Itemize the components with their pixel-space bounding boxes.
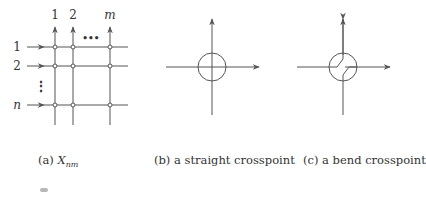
straight-crosspoint-diagram [166,19,259,115]
grid-labels: 1 2 m 1 2 n ••• ⋮ [13,8,116,112]
caption-panel-a: (a) Xnm [38,153,78,169]
crossbar-figure: 1 2 m 1 2 n ••• ⋮ [0,0,426,150]
row-label-2: 2 [13,59,21,73]
bend-crosspoint-diagram [297,19,390,115]
row-ellipsis: ⋮ [34,78,48,94]
column-ellipsis: ••• [82,33,99,43]
caption-a-variable: X [58,153,66,167]
row-label-1: 1 [13,40,21,54]
row-label-n: n [13,98,21,112]
crossbar-grid-panel-a [27,27,128,125]
caption-panel-c: (c) a bend crosspoint [303,153,426,167]
column-label-1: 1 [51,8,59,22]
column-label-2: 2 [69,8,77,22]
caption-a-subscript: nm [66,160,79,169]
scan-artifact [40,188,48,192]
caption-a-label: (a) [38,153,54,167]
caption-panel-b: (b) a straight crosspoint [154,153,295,167]
column-label-m: m [104,8,115,22]
